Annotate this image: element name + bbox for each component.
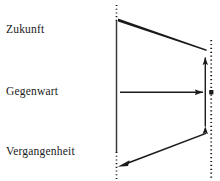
time-perspective-diagram bbox=[0, 0, 220, 181]
present-point-marker bbox=[209, 90, 213, 94]
figure-canvas: Zukunft Gegenwart Vergangenheit bbox=[0, 0, 220, 181]
past-arrow-head bbox=[118, 160, 130, 167]
past-arrow-shaft bbox=[127, 133, 206, 165]
future-arrow bbox=[118, 18, 207, 51]
